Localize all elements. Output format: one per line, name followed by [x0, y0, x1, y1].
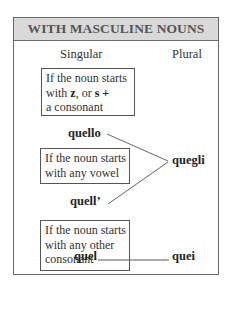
condition-line: If the noun starts	[45, 223, 125, 238]
singular-form-quel: quel	[74, 249, 97, 264]
plural-form-quei: quei	[172, 249, 195, 264]
